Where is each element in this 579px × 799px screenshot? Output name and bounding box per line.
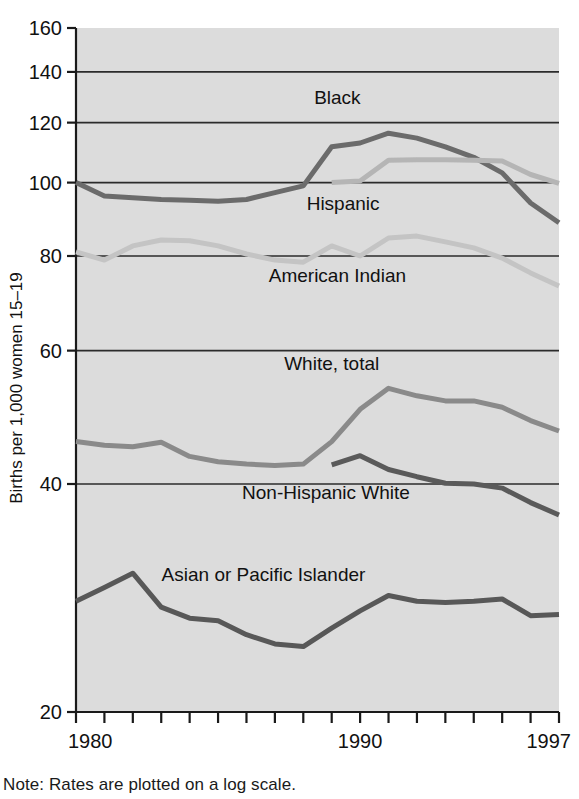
x-tick-label: 1980 [68, 730, 113, 752]
y-tick-label: 60 [40, 340, 62, 362]
y-tick-label: 160 [29, 17, 62, 39]
series-label-black: Black [314, 87, 361, 108]
y-tick-label: 100 [29, 172, 62, 194]
chart-figure: 16014012010080604020198019901997Births p… [0, 0, 579, 799]
teen-birth-rate-line-chart: 16014012010080604020198019901997Births p… [0, 0, 579, 799]
series-label-non-hispanic-white: Non-Hispanic White [242, 482, 410, 503]
y-tick-label: 40 [40, 473, 62, 495]
x-tick-label: 1997 [527, 730, 572, 752]
y-tick-label: 20 [40, 701, 62, 723]
x-tick-label: 1990 [338, 730, 383, 752]
y-tick-label: 120 [29, 112, 62, 134]
series-label-asian-or-pacific-islander: Asian or Pacific Islander [162, 564, 366, 585]
y-tick-label: 80 [40, 245, 62, 267]
series-label-hispanic: Hispanic [307, 193, 380, 214]
series-label-american-indian: American Indian [269, 265, 406, 286]
series-label-white-total: White, total [284, 353, 379, 374]
y-axis-title: Births per 1,000 women 15–19 [7, 272, 26, 504]
y-tick-label: 140 [29, 61, 62, 83]
chart-note: Note: Rates are plotted on a log scale. [3, 775, 296, 795]
